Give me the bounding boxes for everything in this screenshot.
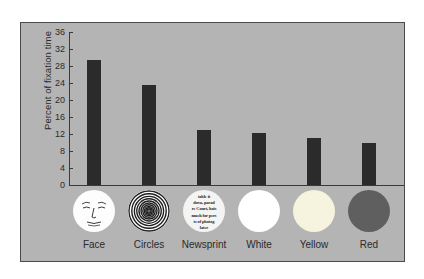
chart-panel: Percent of fixation time 36 32 28 24 20 …: [20, 22, 405, 262]
y-tick-label-0: 0: [31, 185, 65, 186]
y-tick-label-36: 36: [31, 32, 65, 33]
y-tick-32: [69, 49, 73, 50]
bar-white[interactable]: [252, 133, 266, 185]
bar-circles[interactable]: [142, 85, 156, 185]
y-tick-label-8: 8: [31, 151, 65, 152]
y-tick-16: [69, 117, 73, 118]
y-tick-20: [69, 100, 73, 101]
stimulus-swatch-yellow[interactable]: [293, 190, 335, 232]
y-tick-label-20: 20: [31, 100, 65, 101]
y-tick-label-4: 4: [31, 168, 65, 169]
bar-face[interactable]: [87, 60, 101, 185]
stimulus-swatch-circles[interactable]: [128, 190, 170, 232]
plot-area: Percent of fixation time 36 32 28 24 20 …: [21, 23, 406, 263]
bar-yellow[interactable]: [307, 138, 321, 185]
y-tick-24: [69, 83, 73, 84]
newsprint-line-6: later: [183, 225, 225, 231]
stimulus-swatch-red[interactable]: [348, 190, 390, 232]
y-tick-36: [69, 32, 73, 33]
y-tick-28: [69, 66, 73, 67]
x-label-red: Red: [326, 239, 412, 250]
y-axis-spine: [69, 32, 70, 186]
y-tick-label-16: 16: [31, 117, 65, 118]
y-tick-label-12: 12: [31, 134, 65, 135]
y-tick-label-28: 28: [31, 66, 65, 67]
stimulus-swatch-newsprint[interactable]: table it dova, parad re Court, hois much…: [183, 190, 225, 232]
y-tick-label-24: 24: [31, 83, 65, 84]
newsprint-text: table it dova, parad re Court, hois much…: [183, 190, 225, 232]
figure-container: Percent of fixation time 36 32 28 24 20 …: [0, 0, 424, 279]
stimulus-swatch-face[interactable]: [73, 190, 115, 232]
y-tick-8: [69, 151, 73, 152]
y-tick-4: [69, 168, 73, 169]
concentric-circles-icon: [128, 190, 170, 232]
y-tick-label-32: 32: [31, 49, 65, 50]
x-axis-baseline: [69, 185, 404, 186]
schematic-face-icon: [73, 190, 115, 232]
stimulus-swatch-white[interactable]: [238, 190, 280, 232]
bar-red[interactable]: [362, 143, 376, 185]
bar-newsprint[interactable]: [197, 130, 211, 185]
y-tick-12: [69, 134, 73, 135]
